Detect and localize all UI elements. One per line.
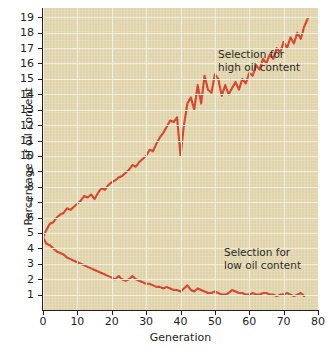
- y-tick-mark: [38, 79, 42, 80]
- annotation-high-selection: Selection for high oil content: [218, 48, 300, 74]
- y-tick-mark: [38, 202, 42, 203]
- y-tick-mark: [38, 279, 42, 280]
- y-tick-mark: [38, 141, 42, 142]
- y-axis-label: Percentage of oil content: [22, 47, 35, 267]
- y-tick-mark: [38, 233, 42, 234]
- grid-line-vertical: [215, 8, 216, 310]
- y-tick-label: 2: [12, 274, 34, 285]
- grid-line-vertical: [43, 8, 44, 310]
- y-tick-mark: [38, 248, 42, 249]
- grid-line-vertical: [181, 8, 182, 310]
- y-tick-mark: [38, 295, 42, 296]
- x-tick-label: 70: [271, 316, 297, 327]
- x-tick-label: 20: [99, 316, 125, 327]
- grid-line-vertical: [112, 8, 113, 310]
- x-tick-label: 30: [133, 316, 159, 327]
- y-tick-mark: [38, 156, 42, 157]
- y-axis-line: [42, 8, 43, 311]
- y-tick-mark: [38, 264, 42, 265]
- y-tick-mark: [38, 125, 42, 126]
- y-tick-label: 19: [12, 12, 34, 23]
- grid-line-vertical: [77, 8, 78, 310]
- y-tick-mark: [38, 94, 42, 95]
- y-tick-mark: [38, 110, 42, 111]
- y-tick-label: 18: [12, 27, 34, 38]
- oil-content-selection-chart: Selection for high oil content Selection…: [0, 0, 330, 348]
- y-tick-mark: [38, 63, 42, 64]
- plot-area: Selection for high oil content Selection…: [43, 8, 318, 310]
- y-tick-label: 1: [12, 289, 34, 300]
- annotation-low-selection: Selection for low oil content: [224, 246, 301, 272]
- grid-line-vertical: [146, 8, 147, 310]
- y-tick-mark: [38, 17, 42, 18]
- y-tick-mark: [38, 48, 42, 49]
- x-tick-label: 40: [168, 316, 194, 327]
- y-tick-mark: [38, 187, 42, 188]
- x-tick-label: 10: [64, 316, 90, 327]
- x-tick-label: 80: [305, 316, 330, 327]
- x-tick-label: 0: [30, 316, 56, 327]
- y-tick-mark: [38, 33, 42, 34]
- y-tick-mark: [38, 218, 42, 219]
- y-tick-mark: [38, 171, 42, 172]
- x-tick-label: 60: [236, 316, 262, 327]
- x-tick-label: 50: [202, 316, 228, 327]
- x-axis-label: Generation: [43, 331, 318, 344]
